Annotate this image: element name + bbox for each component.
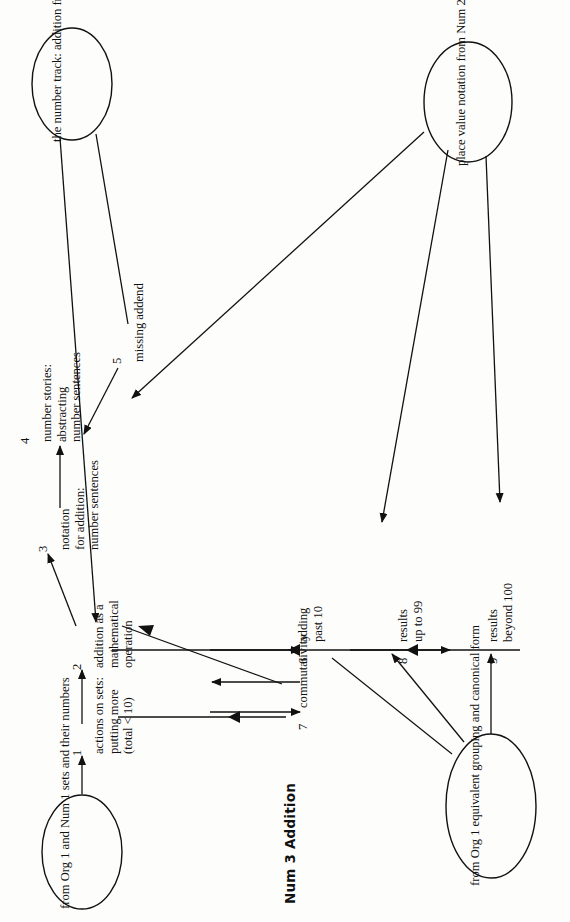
edge-placevalue-to-9	[486, 156, 500, 502]
node-line: putting more	[107, 677, 122, 754]
node-results-up-to-99: 8 results up to 99	[396, 601, 425, 642]
ellipse-line: track: addition	[50, 9, 64, 82]
node-line: missing addend	[132, 283, 147, 362]
ellipse-line: from Org 1	[58, 853, 72, 909]
node-line: results	[486, 583, 501, 642]
node-commutativity: 7 commutativity	[296, 635, 311, 708]
node-number-stories: 4 number stories: abstracting number sen…	[40, 352, 84, 442]
node-line: notation	[58, 460, 73, 550]
node-line: commutativity	[296, 635, 311, 708]
node-line: actions on sets:	[92, 677, 107, 754]
node-line: beyond 100	[501, 583, 516, 642]
ellipse-line: and canonical form	[468, 625, 482, 722]
ellipse-line: from Num 2	[454, 0, 468, 61]
ellipse-line: from NuSp 1	[50, 0, 64, 6]
node-line: number stories:	[40, 352, 55, 442]
node-line: number sentences	[87, 460, 102, 550]
node-line: up to 99	[411, 601, 426, 642]
node-line: number sentences	[69, 352, 84, 442]
node-line: (total < 10)	[121, 677, 136, 754]
node-number: 2	[70, 664, 85, 670]
spine-arrow-2	[406, 644, 418, 656]
page-title: Num 3 Addition	[282, 783, 298, 904]
ellipse-line: and Num 1	[58, 793, 72, 849]
ellipse-equivalent-grouping-label: from Org 1 equivalent grouping and canon…	[468, 726, 483, 886]
node-results-beyond-100: 9 results beyond 100	[486, 583, 515, 642]
ellipse-place-value-label: place value notation from Num 2	[454, 38, 469, 166]
node-number: 1	[70, 750, 85, 756]
node-notation-for-addition: 3 notation for addition: number sentence…	[58, 460, 102, 550]
ellipse-line: equivalent grouping	[468, 725, 482, 826]
ellipse-number-track-shape	[32, 28, 112, 140]
node-number: 7	[296, 724, 311, 730]
ellipse-number-track-label: the number track: addition from NuSp 1	[50, 26, 65, 142]
edge-placevalue-to-8	[382, 150, 448, 522]
node-line: addition as a	[92, 600, 107, 668]
edge-2-to-3	[48, 554, 76, 626]
ellipse-line: place value notation	[454, 65, 468, 166]
node-line: past 10	[311, 606, 326, 642]
node-line: for addition:	[73, 460, 88, 550]
ellipse-sets-and-numbers-label: from Org 1 and Num 1 sets and their numb…	[58, 795, 73, 909]
edge-5-to-4	[84, 368, 118, 434]
node-number: 3	[36, 546, 51, 552]
edge-placevalue-to-4	[132, 132, 424, 398]
ellipse-sets-and-numbers-shape	[42, 795, 122, 909]
node-actions-on-sets: 1 actions on sets: putting more (total <…	[92, 677, 136, 754]
node-number: 5	[110, 358, 125, 364]
node-number: 4	[18, 438, 33, 444]
ellipse-line: sets and	[58, 750, 72, 790]
ellipse-line: their numbers	[58, 677, 72, 747]
ellipse-line: from Org 1	[468, 830, 482, 886]
edge-track-to-5	[96, 134, 128, 324]
node-line: abstracting	[55, 352, 70, 442]
diagram-canvas: Num 3 Addition from Org 1 and Num 1 sets…	[0, 0, 570, 922]
node-line: results	[396, 601, 411, 642]
node-line: mathematical	[107, 600, 122, 668]
edge-commutativity-a-arrow	[228, 711, 240, 723]
node-addition-operation: 2 addition as a mathematical operation	[92, 600, 136, 668]
ellipse-equivalent-grouping-shape	[446, 734, 536, 878]
node-number: 8	[396, 658, 411, 664]
edge-grouping-to-8	[392, 654, 464, 742]
node-missing-addend: 5 missing addend	[132, 283, 147, 362]
ellipse-line: the number	[50, 85, 64, 142]
node-number: 9	[486, 658, 501, 664]
edge-commutativity-b	[122, 626, 282, 684]
node-line: operation	[121, 600, 136, 668]
